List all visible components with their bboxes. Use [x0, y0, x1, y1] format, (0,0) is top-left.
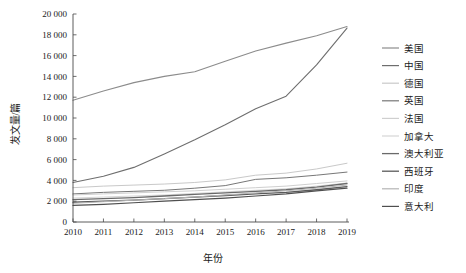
- x-tick-label: 2013: [155, 227, 174, 237]
- legend-label: 意大利: [404, 201, 434, 212]
- y-tick-label: 20 000: [42, 9, 67, 19]
- series-line-美国: [73, 26, 347, 100]
- y-tick-label: 2 000: [47, 196, 68, 206]
- legend-item-德国[interactable]: 德国: [382, 78, 424, 89]
- y-tick-label: 0: [63, 217, 68, 227]
- legend-item-澳大利亚[interactable]: 澳大利亚: [382, 148, 444, 159]
- legend-item-美国[interactable]: 美国: [382, 43, 424, 54]
- x-tick-label: 2014: [186, 227, 205, 237]
- legend-item-加拿大[interactable]: 加拿大: [382, 131, 434, 142]
- legend-label: 西班牙: [404, 166, 434, 177]
- legend-item-法国[interactable]: 法国: [382, 113, 424, 124]
- legend-label: 德国: [404, 78, 424, 89]
- y-tick-label: 8 000: [47, 134, 68, 144]
- y-tick-labels: 02 0004 0006 0008 00010 00012 00014 0001…: [42, 9, 67, 227]
- chart-legend: 美国中国德国英国法国加拿大澳大利亚西班牙印度意大利: [382, 43, 444, 212]
- y-tick-label: 14 000: [42, 72, 67, 82]
- x-tick-labels: 2010201120122013201420152016201720182019: [64, 227, 357, 237]
- x-tick-label: 2019: [338, 227, 357, 237]
- legend-label: 美国: [404, 43, 424, 54]
- y-tick-label: 10 000: [42, 113, 67, 123]
- x-tick-label: 2011: [95, 227, 113, 237]
- x-tick-label: 2016: [247, 227, 266, 237]
- y-tick-label: 12 000: [42, 92, 67, 102]
- legend-item-印度[interactable]: 印度: [382, 183, 424, 194]
- x-axis-title: 年份: [203, 252, 223, 264]
- y-axis-title: 发文量/篇: [9, 103, 21, 146]
- legend-label: 中国: [404, 60, 424, 71]
- legend-item-西班牙[interactable]: 西班牙: [382, 166, 434, 177]
- y-tick-label: 6 000: [47, 155, 68, 165]
- y-tick-label: 18 000: [42, 30, 67, 40]
- chart-container: 02 0004 0006 0008 00010 00012 00014 0001…: [0, 0, 466, 273]
- x-tick-label: 2017: [277, 227, 296, 237]
- y-tick-label: 16 000: [42, 51, 67, 61]
- line-chart: 02 0004 0006 0008 00010 00012 00014 0001…: [0, 0, 466, 273]
- y-tick-label: 4 000: [47, 176, 68, 186]
- legend-item-意大利[interactable]: 意大利: [382, 201, 434, 212]
- x-tick-label: 2012: [125, 227, 143, 237]
- legend-label: 法国: [404, 113, 424, 124]
- legend-label: 英国: [404, 95, 424, 106]
- legend-label: 加拿大: [404, 131, 434, 142]
- legend-item-英国[interactable]: 英国: [382, 95, 424, 106]
- x-tick-label: 2018: [308, 227, 327, 237]
- legend-item-中国[interactable]: 中国: [382, 60, 424, 71]
- plot-area: [73, 26, 347, 205]
- legend-label: 澳大利亚: [404, 148, 444, 159]
- legend-label: 印度: [404, 183, 424, 194]
- x-tick-label: 2010: [64, 227, 83, 237]
- x-tick-label: 2015: [216, 227, 235, 237]
- series-line-中国: [73, 28, 347, 182]
